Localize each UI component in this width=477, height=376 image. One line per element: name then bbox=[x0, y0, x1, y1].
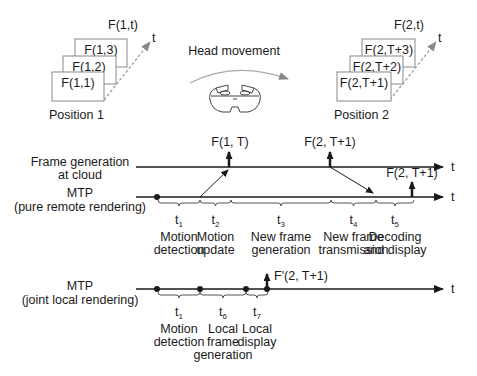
position2-frame-stack: F(2,T+3) F(2,T+2) F(2,T+1) F(2,t) t Posi… bbox=[334, 18, 442, 122]
segment-description: generation bbox=[193, 348, 252, 362]
segment-description: Motion bbox=[160, 322, 198, 336]
segment-symbol: t1 bbox=[175, 213, 183, 229]
position1-axis-label: t bbox=[152, 31, 156, 45]
display-event-label: F(2, T+1) bbox=[386, 166, 438, 180]
mtp-local-label-line1: MTP bbox=[67, 279, 93, 293]
segment-symbol: t2 bbox=[212, 213, 220, 229]
segment-brace bbox=[331, 200, 376, 206]
segment-symbol: t1 bbox=[175, 305, 183, 321]
segment-description: Motion bbox=[160, 230, 198, 244]
cloud-label-line2: at cloud bbox=[58, 168, 102, 182]
mtp-local-axis-label: t bbox=[451, 282, 455, 296]
local-dot bbox=[197, 286, 203, 292]
cloud-event-label-1: F(1, T) bbox=[211, 135, 248, 149]
segment-description: detection bbox=[154, 335, 205, 349]
cloud-axis-label: t bbox=[451, 160, 455, 174]
segment-symbol: t3 bbox=[277, 213, 285, 229]
mtp-diagram: F(1,3) F(1,2) F(1,1) F(1,t) t Position 1… bbox=[0, 0, 477, 376]
segment-brace bbox=[246, 292, 268, 298]
segment-description: generation bbox=[251, 243, 310, 257]
mtp-remote-label-line1: MTP bbox=[67, 186, 93, 200]
position1-series-label: F(1,t) bbox=[108, 18, 138, 32]
segment-brace bbox=[200, 200, 231, 206]
segment-description: frame bbox=[207, 335, 239, 349]
cloud-event-label-2: F(2, T+1) bbox=[304, 135, 356, 149]
segment-brace bbox=[231, 200, 331, 206]
segment-brace bbox=[158, 200, 200, 206]
frame-label: F(1,1) bbox=[61, 76, 94, 90]
segment-description: update bbox=[196, 243, 234, 257]
mtp-local-label-line2: (joint local rendering) bbox=[22, 293, 139, 307]
position2-series-label: F(2,t) bbox=[394, 18, 424, 32]
local-dot bbox=[154, 286, 160, 292]
local-braces bbox=[158, 292, 268, 298]
segment-symbol: t5 bbox=[391, 213, 399, 229]
remote-segment-labels: t1Motiondetectiont2Motionupdatet3New fra… bbox=[154, 213, 428, 257]
position1-frame-stack: F(1,3) F(1,2) F(1,1) F(1,t) t Position 1 bbox=[49, 18, 156, 122]
segment-description: Motion bbox=[197, 230, 235, 244]
head-movement-label: Head movement bbox=[188, 44, 280, 58]
segment-symbol: t7 bbox=[253, 305, 261, 321]
segment-symbol: t4 bbox=[350, 213, 358, 229]
upload-arrow bbox=[200, 170, 228, 197]
segment-symbol: t6 bbox=[219, 305, 227, 321]
frame-label: F(2,T+1) bbox=[340, 76, 388, 90]
local-dot bbox=[243, 286, 249, 292]
frame-label: F(2,T+3) bbox=[365, 43, 413, 57]
motion-start-dot bbox=[154, 194, 160, 200]
cloud-label-line1: Frame generation bbox=[31, 155, 130, 169]
segment-description: Decoding bbox=[369, 230, 422, 244]
segment-description: display bbox=[238, 335, 278, 349]
frame-label: F(1,3) bbox=[84, 43, 117, 57]
mtp-remote-label-line2: (pure remote rendering) bbox=[14, 200, 146, 214]
segment-brace bbox=[158, 292, 200, 298]
segment-description: New frame bbox=[251, 230, 311, 244]
vr-headset-icon bbox=[210, 85, 261, 112]
position2-axis-label: t bbox=[438, 31, 442, 45]
segment-brace bbox=[200, 292, 246, 298]
position1-label: Position 1 bbox=[49, 108, 104, 122]
local-event-label: F'(2, T+1) bbox=[274, 269, 328, 283]
remote-braces bbox=[158, 200, 414, 206]
position2-label: Position 2 bbox=[334, 108, 389, 122]
segment-description: and display bbox=[363, 243, 427, 257]
segment-description: Local bbox=[242, 322, 272, 336]
head-movement-arrow bbox=[190, 70, 288, 83]
mtp-remote-axis-label: t bbox=[451, 190, 455, 204]
segment-description: Local bbox=[208, 322, 238, 336]
local-segment-labels: t1Motiondetectiont6Localframegenerationt… bbox=[154, 305, 278, 362]
segment-brace bbox=[376, 200, 414, 206]
download-arrow bbox=[330, 167, 373, 193]
